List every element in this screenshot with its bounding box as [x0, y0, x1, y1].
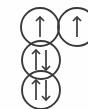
orbital-bottom-circle	[22, 71, 60, 109]
orbital-top-left-electron-up-arrow	[36, 17, 44, 37]
orbital-top-right	[58, 8, 88, 46]
orbital-diagram	[0, 0, 88, 109]
orbital-bottom	[22, 71, 60, 109]
orbital-top-right-circle	[58, 8, 88, 46]
orbital-diagram-canvas	[0, 0, 88, 109]
orbital-bottom-electron-up-arrow	[32, 80, 40, 100]
orbital-top-right-electron-up-arrow	[73, 17, 81, 37]
orbital-bottom-electron-down-arrow	[42, 80, 50, 100]
orbital-middle-electron-down-arrow	[42, 50, 50, 70]
orbital-middle-electron-up-arrow	[32, 50, 40, 70]
